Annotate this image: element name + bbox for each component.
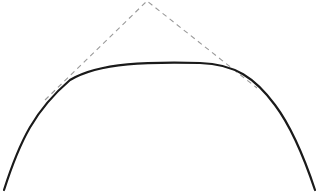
main-curve xyxy=(4,63,315,190)
curve-diagram xyxy=(0,0,323,192)
dashed-construction-lines xyxy=(45,1,257,100)
